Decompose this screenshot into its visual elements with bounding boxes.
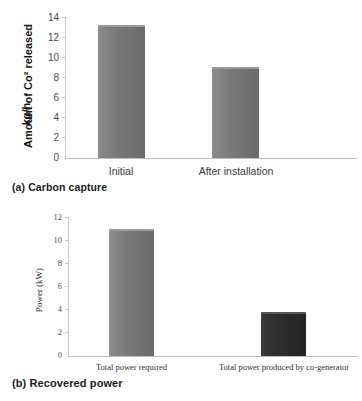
chart-a-bar-initial — [98, 25, 145, 158]
chart-a-tick-mark — [62, 117, 66, 118]
figure-recovered-power: Power (kW) 12 10 8 6 4 2 0 Total power r… — [0, 195, 362, 401]
chart-a-tick-mark — [62, 97, 66, 98]
chart-a-x-axis-line — [65, 158, 357, 159]
chart-b-ytick-2: 2 — [44, 327, 62, 337]
chart-a-tick-mark — [62, 37, 66, 38]
chart-a-ytick-6: 6 — [37, 92, 59, 103]
chart-a-xtick-after-installation: After installation — [186, 165, 286, 177]
chart-b-ytick-6: 6 — [44, 281, 62, 291]
chart-b-tick-mark — [65, 217, 69, 218]
chart-b-ytick-0: 0 — [44, 350, 62, 360]
chart-b-tick-mark — [65, 309, 69, 310]
figure-carbon-capture: Amount of Co² released kg/h 14 12 10 8 6… — [0, 0, 362, 200]
chart-a-tick-mark — [62, 77, 66, 78]
chart-a-tick-mark — [62, 57, 66, 58]
chart-a-ytick-10: 10 — [37, 52, 59, 63]
chart-a-ytick-4: 4 — [37, 112, 59, 123]
chart-b-y-axis-title: Power (kW) — [34, 255, 44, 325]
chart-b-tick-mark — [65, 263, 69, 264]
chart-a-xtick-initial: Initial — [81, 165, 161, 177]
chart-a-tick-mark — [62, 17, 66, 18]
chart-a-bar-after-installation — [212, 67, 259, 158]
chart-b-plot-area: Power (kW) 12 10 8 6 4 2 0 Total power r… — [0, 195, 362, 401]
chart-a-ytick-12: 12 — [37, 32, 59, 43]
chart-a-tick-mark — [62, 137, 66, 138]
chart-a-plot-area: Amount of Co² released kg/h 14 12 10 8 6… — [0, 0, 362, 200]
chart-a-ytick-14: 14 — [37, 12, 59, 23]
chart-b-x-axis-line — [68, 356, 358, 357]
chart-a-y-axis-title-unit: kg/h — [20, 84, 32, 144]
chart-b-xtick-total-power-required: Total power required — [79, 362, 184, 372]
chart-b-ytick-10: 10 — [44, 235, 62, 245]
chart-b-ytick-8: 8 — [44, 258, 62, 268]
figure-a-caption: (a) Carbon capture — [12, 181, 107, 193]
chart-b-tick-mark — [65, 332, 69, 333]
chart-b-tick-mark — [65, 286, 69, 287]
chart-a-ytick-8: 8 — [37, 72, 59, 83]
chart-b-xtick-total-power-produced: Total power produced by co-generator — [208, 362, 360, 372]
figure-b-caption: (b) Recovered power — [12, 377, 123, 389]
chart-b-bar-total-power-produced — [261, 312, 306, 356]
chart-b-ytick-4: 4 — [44, 304, 62, 314]
chart-b-bar-total-power-required — [109, 229, 154, 356]
chart-a-ytick-0: 0 — [37, 152, 59, 163]
chart-a-ytick-2: 2 — [37, 132, 59, 143]
chart-b-tick-mark — [65, 240, 69, 241]
chart-b-ytick-12: 12 — [44, 212, 62, 222]
